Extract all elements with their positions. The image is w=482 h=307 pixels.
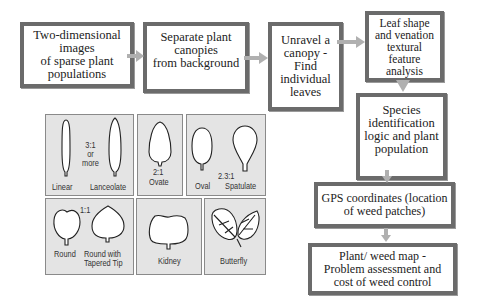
kidney-label: Kidney bbox=[158, 257, 181, 266]
arrow-right-icon bbox=[337, 36, 367, 48]
linear-label: Linear bbox=[52, 183, 73, 192]
round-leaf-icon bbox=[53, 208, 81, 248]
ovate-leaf-icon bbox=[148, 122, 172, 168]
ratio-2-3-1-label: 2.3:1 bbox=[218, 172, 234, 181]
arrow-right-icon bbox=[244, 52, 270, 64]
step-separate-canopies: Separate plant canopies from background bbox=[143, 22, 249, 93]
arrow-down-icon bbox=[396, 80, 410, 94]
arrow-right-icon bbox=[127, 50, 147, 62]
step-2d-images: Two-dimensional images of sparse plant p… bbox=[20, 22, 134, 88]
step-species-identification: Species identification logic and plant p… bbox=[356, 93, 447, 180]
step-weed-map: Plant/ weed map - Problem assessment and… bbox=[308, 243, 457, 295]
ratio-3-1-label: 3:1 or more bbox=[82, 141, 99, 168]
ovate-label: Ovate bbox=[149, 178, 169, 187]
spatulate-leaf-icon bbox=[232, 126, 258, 174]
round-tapered-leaf-icon bbox=[91, 206, 125, 244]
oval-leaf-icon bbox=[191, 128, 213, 172]
linear-leaf-icon bbox=[60, 120, 72, 180]
arrow-down-icon bbox=[382, 170, 392, 184]
step-leaf-analysis: Leaf shape and venation textural feature… bbox=[365, 11, 444, 82]
ratio-1-1-label: 1:1 bbox=[80, 206, 90, 215]
round-tapered-label: Round with Tapered Tip bbox=[84, 250, 123, 268]
arrow-down-icon bbox=[381, 228, 391, 243]
butterfly-label: Butterfly bbox=[220, 257, 247, 266]
kidney-leaf-icon bbox=[149, 214, 189, 252]
lanceolate-label: Lanceolate bbox=[90, 183, 126, 192]
lanceolate-leaf-icon bbox=[108, 118, 122, 180]
step-gps-coordinates: GPS coordinates (location of weed patche… bbox=[314, 182, 455, 228]
round-label: Round bbox=[54, 250, 76, 259]
step-unravel-canopy: Unravel a canopy - Find individual leave… bbox=[268, 22, 343, 111]
butterfly-leaf-icon bbox=[211, 207, 261, 251]
ratio-2-1-label: 2:1 bbox=[153, 168, 163, 177]
oval-label: Oval bbox=[195, 182, 210, 191]
spatulate-label: Spatulate bbox=[225, 182, 256, 191]
